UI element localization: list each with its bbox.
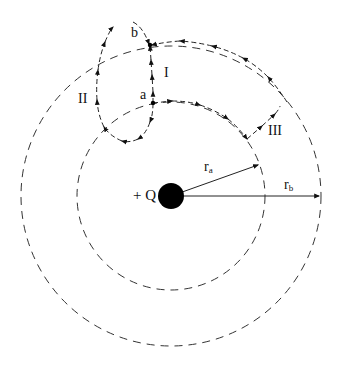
label-rb-sub: b — [289, 183, 294, 193]
label-charge: + Q — [133, 188, 156, 203]
path-III — [152, 41, 287, 139]
label-ra: ra — [204, 160, 213, 175]
label-point-b: b — [131, 26, 138, 40]
label-path-III: III — [268, 124, 282, 138]
path-II — [97, 22, 153, 142]
label-rb: rb — [284, 178, 293, 193]
label-path-II: II — [78, 92, 87, 106]
point-b — [148, 43, 152, 47]
label-ra-sub: a — [209, 165, 213, 175]
point-a — [151, 101, 155, 105]
path-I — [150, 46, 153, 103]
label-point-a: a — [140, 88, 146, 102]
radius-ra-arrow — [171, 165, 258, 196]
charge-q — [158, 183, 184, 209]
label-path-I: I — [164, 66, 169, 80]
